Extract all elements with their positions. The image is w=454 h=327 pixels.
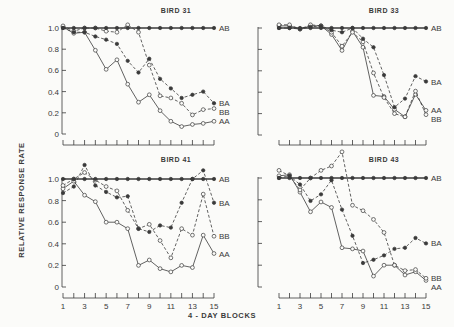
panel-title: BIRD 31 [161, 7, 191, 14]
data-point [94, 184, 97, 187]
data-point [72, 177, 75, 180]
data-point [414, 26, 417, 29]
data-point [277, 26, 280, 29]
y-tick-label: 1.0 [48, 175, 60, 184]
series-bb [61, 171, 216, 260]
data-point [83, 26, 86, 29]
data-point [393, 263, 397, 267]
data-point [212, 201, 215, 204]
data-point [340, 26, 343, 29]
series-label-aa: AA [431, 106, 442, 115]
data-point [115, 26, 118, 29]
data-point [298, 183, 301, 186]
data-point [72, 31, 75, 34]
data-point [372, 274, 376, 278]
data-point [351, 30, 355, 34]
data-point [403, 176, 406, 179]
x-tick-label: 9 [147, 302, 152, 311]
series-label-ab: AB [431, 24, 442, 33]
data-point [309, 199, 312, 202]
series-ba [277, 24, 427, 109]
data-point [201, 233, 205, 237]
data-point [340, 246, 344, 250]
data-point [361, 45, 365, 49]
data-point [72, 185, 75, 188]
data-point [115, 58, 119, 62]
data-point [126, 227, 130, 231]
data-point [309, 26, 312, 29]
data-point [158, 267, 162, 271]
data-point [393, 26, 396, 29]
x-tick-label: 13 [188, 302, 197, 311]
x-tick-label: 3 [82, 302, 87, 311]
data-point [137, 227, 140, 230]
data-point [158, 224, 161, 227]
data-point [330, 206, 334, 210]
data-point [158, 26, 161, 29]
series-ab [277, 176, 427, 179]
data-point [393, 176, 396, 179]
data-point [137, 177, 140, 180]
series-label-ab: AB [431, 174, 442, 183]
series-aa [277, 24, 428, 119]
x-tick-label: 11 [380, 302, 389, 311]
y-tick-label: 0.6 [48, 66, 60, 75]
data-point [361, 261, 364, 264]
panel-title: BIRD 33 [369, 7, 399, 14]
series-label-bb: BB [431, 274, 442, 283]
data-point [94, 35, 97, 38]
data-point [137, 26, 140, 29]
data-point [147, 63, 151, 67]
y-tick-label: 0.2 [48, 261, 60, 270]
series-label-aa: AA [219, 117, 230, 126]
data-point [126, 26, 129, 29]
data-point [382, 26, 385, 29]
data-point [403, 97, 406, 100]
data-point [340, 44, 344, 48]
series-label-bb: BB [219, 232, 230, 241]
data-point [351, 26, 354, 29]
x-tick-label: 5 [104, 302, 109, 311]
data-point [403, 273, 407, 277]
data-point [202, 177, 205, 180]
data-point [126, 195, 129, 198]
data-point [277, 176, 280, 179]
data-point [372, 176, 375, 179]
data-point [202, 26, 205, 29]
data-point [330, 176, 333, 179]
x-tick-label: 9 [361, 302, 366, 311]
data-point [61, 184, 65, 188]
x-tick-label: 1 [277, 302, 282, 311]
data-point [169, 26, 172, 29]
data-point [126, 208, 130, 212]
data-point [147, 222, 151, 226]
data-point [414, 268, 418, 272]
data-point [298, 176, 301, 179]
data-point [61, 26, 64, 29]
data-point [180, 96, 183, 99]
series-label-ba: BA [219, 99, 230, 108]
panel-title: BIRD 43 [369, 156, 399, 163]
data-point [104, 38, 107, 41]
data-point [83, 171, 87, 175]
series-bb [277, 150, 428, 280]
data-point [393, 247, 396, 250]
data-point [424, 113, 428, 117]
data-point [94, 177, 97, 180]
x-tick-label: 11 [167, 302, 176, 311]
x-tick-label: 7 [125, 302, 130, 311]
data-point [288, 176, 291, 179]
data-point [180, 227, 184, 231]
data-point [191, 113, 195, 117]
data-point [372, 94, 376, 98]
data-point [115, 177, 118, 180]
data-point [288, 26, 291, 29]
data-point [148, 57, 151, 60]
series-label-ab: AB [219, 24, 230, 33]
panel-bird-41: BIRD 4100.20.40.60.81.013579111315ABBABB… [48, 156, 230, 311]
data-point [424, 26, 427, 29]
data-point [319, 26, 322, 29]
data-point [169, 256, 173, 260]
data-point [212, 102, 215, 105]
data-point [180, 26, 183, 29]
